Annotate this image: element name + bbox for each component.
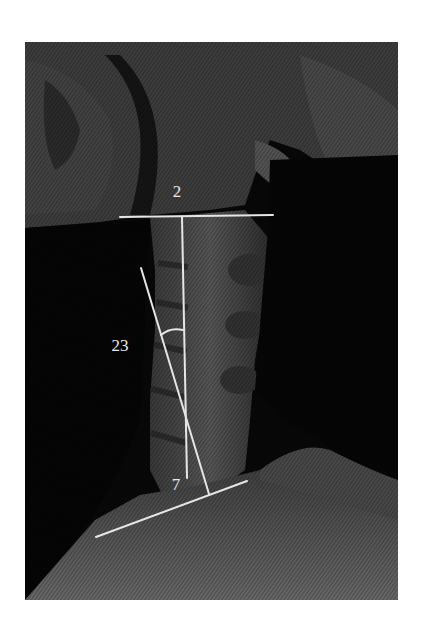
xray-image: 2 23 7 (25, 42, 398, 600)
radiograph-figure: 2 23 7 (0, 0, 427, 632)
label-c7: 7 (172, 475, 181, 494)
xray-svg: 2 23 7 (25, 42, 398, 600)
label-angle: 23 (112, 336, 129, 355)
label-c2: 2 (173, 182, 182, 201)
